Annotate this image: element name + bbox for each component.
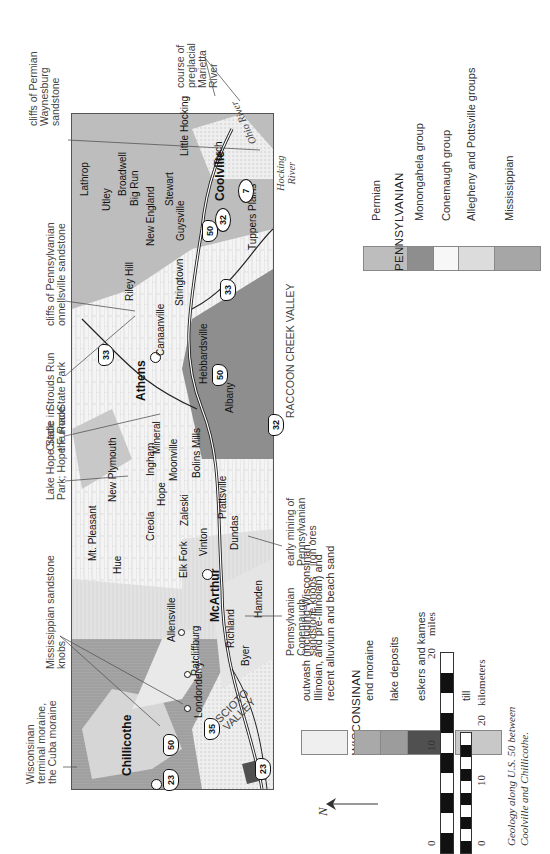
north-label: N bbox=[315, 807, 331, 816]
figure-caption: Geology along U.S. 50 betweenCoolville a… bbox=[505, 707, 531, 846]
scale-km-0: 0 bbox=[475, 841, 487, 847]
legend-label-lake-deposits: lake deposits bbox=[388, 637, 400, 701]
legend-label-mississippian: Mississippian bbox=[503, 156, 515, 221]
legend-label-permian: Permian bbox=[370, 180, 382, 221]
legend-label-conemaugh: Conemaugh group bbox=[440, 130, 452, 221]
legend-swatch-outwash bbox=[301, 730, 348, 755]
scale-bar-km bbox=[460, 732, 472, 854]
legend-label-monongahela: Monongahela group bbox=[413, 123, 425, 221]
legend-header-pennsylvanian: PENNSYLVANIAN bbox=[393, 172, 405, 271]
scale-miles-20: 20 bbox=[425, 648, 437, 659]
scale-miles-0: 0 bbox=[425, 841, 437, 847]
north-arrow-icon bbox=[320, 784, 380, 824]
legend-label-outwash: outwash (including Wisconsinan,Illinoian… bbox=[300, 541, 336, 701]
scale-miles-unit: miles bbox=[425, 612, 437, 636]
scale-km-unit: kilometers bbox=[475, 660, 487, 706]
scale-km-10: 10 bbox=[475, 775, 487, 786]
legend-label-till: till bbox=[460, 691, 472, 701]
legend-label-allegheny: Allegheny and Pottsville groups bbox=[465, 68, 477, 221]
legend-swatch-mississippian bbox=[494, 246, 541, 271]
scale-km-20: 20 bbox=[475, 715, 487, 726]
scale-bar-miles bbox=[440, 652, 454, 854]
scale-miles-10: 10 bbox=[425, 740, 437, 751]
legend-label-end-moraine: end moraine bbox=[363, 640, 375, 701]
